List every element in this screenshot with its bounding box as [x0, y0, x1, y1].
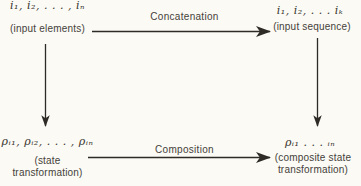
composite-state-transformation-label: (composite statetransformation) — [266, 152, 360, 176]
input-sequence-expression: i₁, i₂, . . . iₖ — [264, 5, 356, 17]
composite-state-transformation-label-line1: (composite state — [275, 152, 352, 163]
composition-label: Composition — [92, 144, 277, 156]
input-sequence-label: (input sequence) — [264, 21, 360, 33]
composite-state-transformation-expression: ρᵢ₁ . . . ᵢₙ — [264, 137, 356, 149]
diagram-canvas: i₁, i₂, . . . , iₙ (input elements) Conc… — [0, 0, 361, 186]
composite-state-transformation-label-line2: transformation) — [278, 164, 348, 175]
state-transformation-label: (statetransformation) — [0, 155, 95, 179]
state-transformation-label-line1: (state — [34, 155, 60, 166]
input-elements-expression: i₁, i₂, . . . , iₙ — [0, 0, 95, 12]
state-transformation-expression: ρᵢ₁, ρᵢ₂, . . . , ρᵢₙ — [0, 136, 95, 148]
input-elements-label: (input elements) — [0, 23, 95, 35]
state-transformation-label-line2: transformation) — [12, 167, 82, 178]
concatenation-label: Concatenation — [92, 11, 277, 23]
